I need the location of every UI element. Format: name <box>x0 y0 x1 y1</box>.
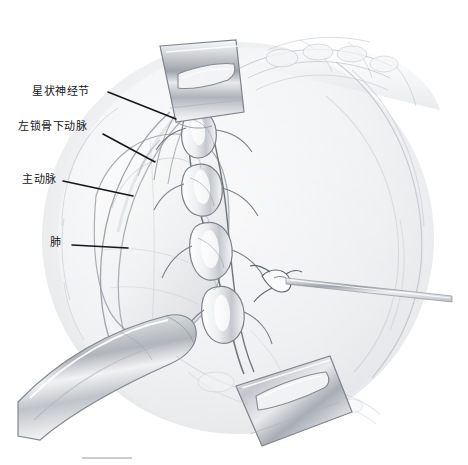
label-stellate-ganglion: 星状神经节 <box>32 85 90 98</box>
label-left-subclavian-artery: 左锁骨下动脉 <box>18 120 87 133</box>
illustration-canvas: 星状神经节 左锁骨下动脉 主动脉 肺 <box>0 0 468 465</box>
anatomy-artwork <box>0 0 468 465</box>
label-lung: 肺 <box>50 236 62 249</box>
label-aorta: 主动脉 <box>22 173 57 186</box>
